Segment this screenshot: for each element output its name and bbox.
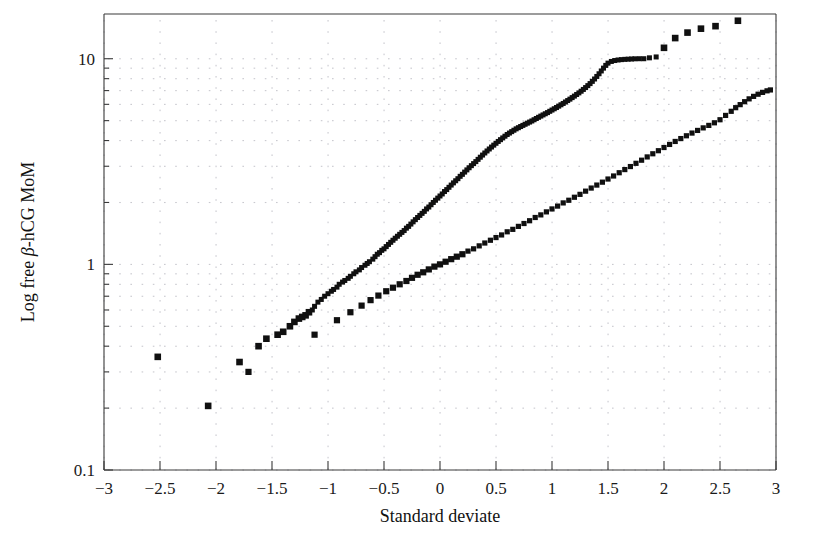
x-tick-label: −3 [95, 479, 113, 498]
data-point [426, 266, 432, 272]
data-point [510, 227, 515, 232]
qq-plot-chart: 0.1110 −3−2.5−2−1.5−1−0.500.511.522.53 S… [0, 0, 816, 553]
data-point [437, 261, 443, 267]
data-point [768, 87, 773, 92]
data-point [755, 92, 760, 97]
data-point [375, 292, 381, 298]
data-point [611, 173, 616, 178]
data-point [622, 167, 627, 172]
data-point [712, 23, 719, 30]
data-point [516, 224, 521, 229]
data-point [632, 56, 637, 61]
data-point [701, 125, 706, 130]
data-point [367, 297, 373, 303]
x-tick-label: −2.5 [145, 479, 176, 498]
data-point [493, 235, 498, 240]
data-point [154, 354, 161, 361]
data-point [672, 35, 679, 42]
data-point [383, 288, 389, 294]
data-point [698, 25, 705, 32]
y-tick-label: 0.1 [74, 461, 95, 480]
data-point [572, 195, 577, 200]
x-axis-title: Standard deviate [380, 506, 500, 526]
data-point [661, 45, 668, 52]
data-point [742, 99, 747, 104]
data-point [684, 29, 691, 36]
data-point [689, 130, 694, 135]
y-axis-title-suffix: -hCG MoM [18, 162, 38, 248]
data-point [334, 317, 340, 323]
data-point [639, 158, 644, 163]
data-point [751, 94, 756, 99]
data-point [594, 182, 599, 187]
data-point [477, 243, 482, 248]
x-tick-label: 0.5 [485, 479, 506, 498]
data-point [628, 164, 633, 169]
data-point [656, 148, 661, 153]
data-point [505, 229, 510, 234]
data-point [673, 139, 678, 144]
x-tick-label: −1 [319, 479, 337, 498]
data-point [311, 332, 317, 338]
data-point [431, 264, 437, 270]
data-point [600, 180, 605, 185]
data-point [645, 154, 650, 159]
data-point [459, 251, 465, 257]
data-point [549, 206, 554, 211]
data-point [527, 218, 532, 223]
data-point [420, 269, 426, 275]
data-point [723, 113, 728, 118]
data-point [650, 151, 655, 156]
data-point [245, 369, 251, 375]
data-point [654, 54, 659, 59]
data-point [482, 240, 487, 245]
data-point [488, 238, 493, 243]
data-point [684, 133, 689, 138]
x-tick-label: −0.5 [369, 479, 400, 498]
data-point [390, 285, 396, 291]
data-point [617, 170, 622, 175]
data-point [760, 90, 765, 95]
data-point [533, 215, 538, 220]
y-tick-label: 10 [78, 50, 95, 69]
x-tick-label: −1.5 [257, 479, 288, 498]
figure-container: 0.1110 −3−2.5−2−1.5−1−0.500.511.522.53 S… [0, 0, 816, 553]
data-point [678, 136, 683, 141]
y-tick-label: 1 [87, 255, 96, 274]
data-point [729, 109, 734, 114]
data-point [263, 335, 270, 342]
data-point [448, 256, 454, 262]
x-tick-label: 0 [436, 479, 445, 498]
data-point [415, 272, 421, 278]
data-point [637, 56, 642, 61]
data-point [583, 189, 588, 194]
data-point [747, 96, 752, 101]
data-point [712, 120, 717, 125]
data-point [589, 185, 594, 190]
data-point [205, 403, 212, 410]
data-point [403, 278, 409, 284]
data-point [397, 281, 403, 287]
data-point [280, 328, 287, 335]
data-point [347, 309, 353, 315]
y-axis-title-symbol: β [18, 247, 38, 257]
data-point [566, 198, 571, 203]
x-tick-label: 1 [548, 479, 557, 498]
data-point [633, 161, 638, 166]
data-point [667, 142, 672, 147]
data-point [717, 117, 722, 122]
data-point [695, 128, 700, 133]
data-point [236, 359, 243, 366]
data-point [555, 204, 560, 209]
data-point [255, 343, 262, 350]
y-axis-title-prefix: Log free [18, 256, 38, 322]
data-point [605, 176, 610, 181]
x-tick-label: −2 [207, 479, 225, 498]
data-point [499, 232, 504, 237]
data-point [577, 192, 582, 197]
data-point [359, 303, 365, 309]
x-tick-label: 1.5 [597, 479, 618, 498]
y-axis-title: Log free β-hCG MoM [18, 162, 38, 322]
data-point [641, 56, 646, 61]
data-point [471, 246, 476, 251]
